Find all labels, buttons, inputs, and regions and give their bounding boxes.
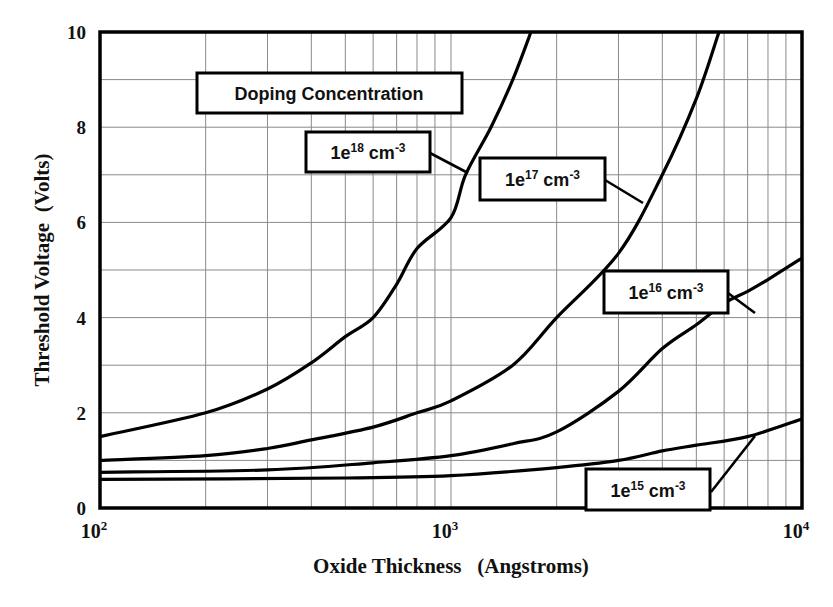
x-axis-label: Oxide Thickness (Angstroms) [313, 554, 589, 578]
series-label-text: 1e17 cm-3 [505, 168, 580, 190]
series-label-15: 1e15 cm-3 [586, 436, 755, 510]
y-tick-label: 10 [67, 22, 86, 43]
leader-line [430, 153, 468, 173]
series-label-text: 1e16 cm-3 [628, 281, 703, 303]
series-label-text: 1e18 cm-3 [330, 141, 405, 163]
leader-line [605, 180, 643, 203]
leader-line [711, 436, 755, 492]
y-tick-label: 2 [77, 403, 87, 424]
x-axis-ticks: 102103104 [81, 518, 810, 542]
series-label-text: 1e15 cm-3 [610, 479, 685, 501]
series-label-16: 1e16 cm-3 [604, 271, 755, 313]
x-tick-label: 104 [783, 518, 810, 542]
y-tick-label: 0 [77, 498, 87, 519]
x-tick-label: 103 [432, 518, 459, 542]
y-axis-label: Threshold Voltage (Volts) [30, 154, 54, 387]
y-tick-label: 4 [77, 308, 87, 329]
legend-title-box: Doping Concentration [197, 73, 462, 113]
legend-title: Doping Concentration [235, 84, 424, 104]
y-axis-ticks: 0246810 [67, 22, 87, 519]
y-tick-label: 6 [77, 212, 87, 233]
x-tick-label: 102 [81, 518, 108, 542]
threshold-voltage-chart: 0246810 102103104 Oxide Thickness (Angst… [0, 0, 833, 607]
y-tick-label: 8 [77, 117, 87, 138]
series-label-18: 1e18 cm-3 [306, 132, 468, 173]
